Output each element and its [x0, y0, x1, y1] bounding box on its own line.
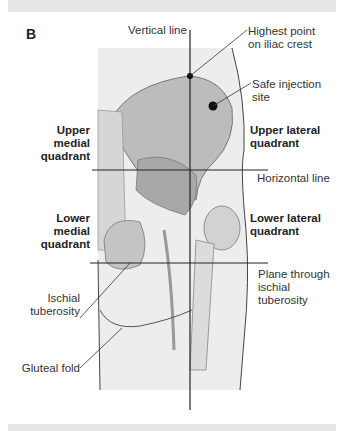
label-line: Highest point: [248, 25, 315, 38]
label-line: Safe injection: [252, 78, 321, 91]
label-line: Plane through: [258, 268, 330, 281]
horizontal-line-label: Horizontal line: [257, 172, 330, 185]
upper-medial-quadrant-label: Upper medial quadrant: [20, 124, 90, 163]
label-line: tuberosity: [258, 294, 330, 307]
lower-medial-quadrant-label: Lower medial quadrant: [18, 212, 90, 251]
ischial-tuberosity-label: Ischial tuberosity: [20, 292, 80, 318]
label-line: on iliac crest: [248, 38, 315, 51]
label-line: tuberosity: [20, 305, 80, 318]
label-line: quadrant: [250, 137, 320, 150]
label-line: ischial: [258, 281, 330, 294]
gluteal-fold-label: Gluteal fold: [20, 362, 80, 375]
safe-injection-site-label: Safe injection site: [252, 78, 321, 104]
label-line: quadrant: [250, 225, 321, 238]
label-line: quadrant: [20, 150, 90, 163]
panel-label: B: [26, 26, 36, 42]
label-line: quadrant: [18, 238, 90, 251]
lower-lateral-quadrant-label: Lower lateral quadrant: [250, 212, 321, 238]
plane-through-ischial-tuberosity-label: Plane through ischial tuberosity: [258, 268, 330, 307]
label-line: site: [252, 91, 321, 104]
ischium: [104, 220, 145, 269]
label-line: Ischial: [20, 292, 80, 305]
vertical-line-label: Vertical line: [128, 24, 187, 37]
label-line: Upper lateral: [250, 124, 320, 137]
label-line: Lower lateral: [250, 212, 321, 225]
label-line: Lower medial: [18, 212, 90, 238]
highest-point-label: Highest point on iliac crest: [248, 25, 315, 51]
label-line: Upper medial: [20, 124, 90, 150]
upper-lateral-quadrant-label: Upper lateral quadrant: [250, 124, 320, 150]
